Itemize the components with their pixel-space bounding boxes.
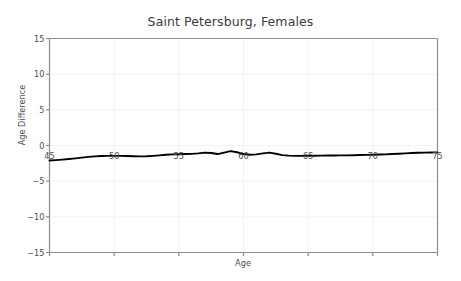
- x-tick-label: 50: [102, 151, 126, 161]
- y-tick-label: 5: [17, 105, 45, 115]
- x-tick-label: 70: [361, 151, 385, 161]
- gridlines: [50, 39, 438, 253]
- x-tick-label: 75: [426, 151, 450, 161]
- x-tick-label: 45: [38, 151, 62, 161]
- y-tick-label: −5: [17, 176, 45, 186]
- chart-figure: Saint Petersburg, Females Age Difference…: [0, 0, 461, 281]
- plot-area: [0, 0, 461, 281]
- y-tick-label: −15: [17, 248, 45, 258]
- x-tick-label: 65: [296, 151, 320, 161]
- y-tick-label: 0: [17, 141, 45, 151]
- y-tick-label: 15: [17, 34, 45, 44]
- x-tick-label: 60: [232, 151, 256, 161]
- y-tick-label: −10: [17, 212, 45, 222]
- x-tick-label: 55: [167, 151, 191, 161]
- y-tick-label: 10: [17, 69, 45, 79]
- axis-ticks: [46, 39, 438, 257]
